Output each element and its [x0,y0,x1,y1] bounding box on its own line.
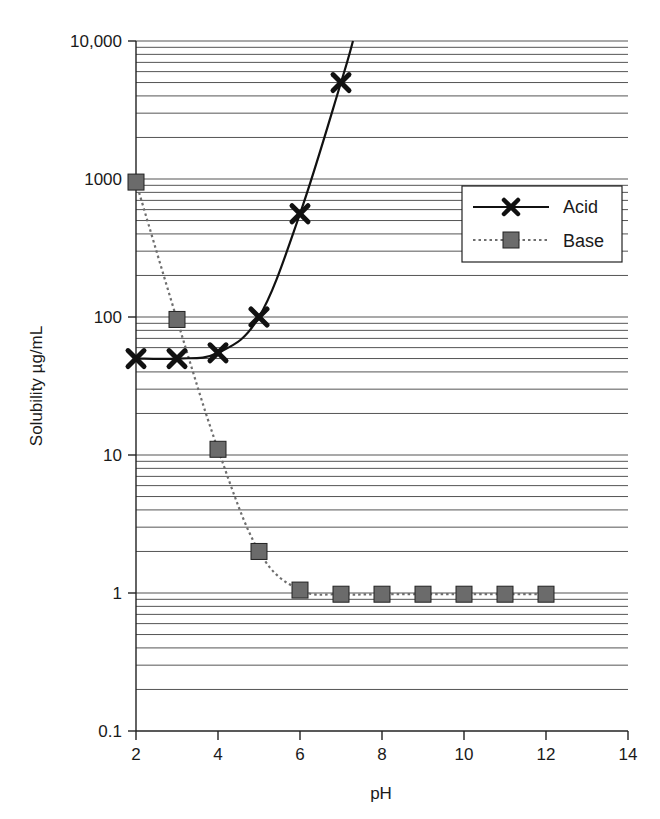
x-tick-label: 6 [295,745,304,764]
x-marker-icon [292,206,308,222]
x-axis-title: pH [370,784,392,803]
square-marker-icon [292,582,308,598]
x-tick-label: 12 [537,745,556,764]
legend: Acid Base [462,186,622,262]
x-tick-label: 8 [377,745,386,764]
square-marker-icon [251,543,267,559]
x-tick-label: 14 [619,745,638,764]
y-tick-label: 10,000 [70,32,122,51]
y-tick-label: 100 [94,308,122,327]
y-axis-title: Solubility µg/mL [27,326,46,446]
y-tick-label: 10 [103,446,122,465]
square-marker-icon [538,586,554,602]
square-marker-icon [374,586,390,602]
square-marker-icon [415,586,431,602]
square-marker-icon [456,586,472,602]
x-tick-label: 2 [131,745,140,764]
legend-label-base: Base [563,231,604,251]
series-acid [128,41,353,367]
y-tick-label: 1 [113,584,122,603]
square-marker-icon [333,586,349,602]
x-tick-label: 10 [455,745,474,764]
y-tick-label: 1000 [84,170,122,189]
y-tick-labels: 0.1110100100010,000 [70,32,122,741]
square-marker-icon [169,311,185,327]
legend-label-acid: Acid [563,197,598,217]
x-tick-labels: 2468101214 [131,745,637,764]
square-marker-icon [503,232,519,248]
square-marker-icon [128,174,144,190]
square-marker-icon [497,586,513,602]
axes [128,41,628,740]
y-tick-label: 0.1 [98,722,122,741]
x-tick-label: 4 [213,745,222,764]
square-marker-icon [210,441,226,457]
solubility-chart: 0.1110100100010,000 2468101214 Solubilit… [0,0,660,819]
